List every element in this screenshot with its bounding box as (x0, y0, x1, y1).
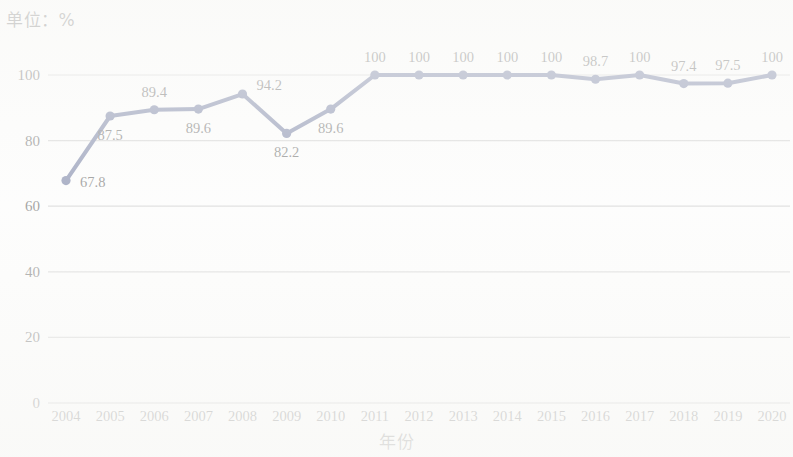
x-axis-tick-label: 2019 (713, 408, 742, 424)
gridlines-group (48, 75, 790, 403)
data-point-label: 100 (629, 49, 651, 65)
data-point-label: 82.2 (274, 144, 299, 160)
data-point-label: 87.5 (97, 127, 122, 143)
y-axis-tick-label: 100 (18, 67, 41, 83)
x-axis-tick-label: 2007 (184, 408, 213, 424)
data-point-label: 98.7 (583, 53, 608, 69)
data-point-marker (61, 176, 70, 185)
x-axis-tick-label: 2020 (758, 408, 787, 424)
x-axis-tick-label: 2005 (96, 408, 125, 424)
y-axis-tick-label: 0 (33, 395, 41, 411)
series-points-group (61, 70, 776, 185)
data-point-marker (547, 70, 556, 79)
data-point-label: 100 (496, 49, 518, 65)
data-point-marker (194, 105, 203, 114)
data-point-marker (591, 75, 600, 84)
data-point-label: 100 (541, 49, 563, 65)
data-point-label: 100 (408, 49, 430, 65)
x-axis-tick-label: 2011 (361, 408, 389, 424)
data-point-label: 89.6 (186, 120, 211, 136)
data-point-marker (238, 89, 247, 98)
data-point-marker (767, 70, 776, 79)
data-point-label: 67.8 (80, 174, 105, 190)
x-axis-tick-label: 2015 (537, 408, 566, 424)
y-axis-tick-label: 60 (25, 198, 40, 214)
data-point-label: 89.6 (318, 120, 343, 136)
x-axis-tick-label: 2013 (449, 408, 478, 424)
y-axis-ticks: 020406080100 (18, 67, 41, 411)
data-point-marker (414, 70, 423, 79)
x-axis-tick-label: 2012 (405, 408, 434, 424)
y-axis-tick-label: 20 (25, 329, 40, 345)
x-axis-tick-label: 2008 (228, 408, 257, 424)
data-point-marker (150, 105, 159, 114)
y-axis-tick-label: 40 (25, 264, 40, 280)
x-axis-tick-label: 2010 (316, 408, 345, 424)
x-axis-tick-label: 2009 (272, 408, 301, 424)
y-axis-tick-label: 80 (25, 133, 40, 149)
line-chart-plot: 020406080100 200420052006200720082009201… (0, 0, 793, 457)
series-line (66, 75, 772, 181)
data-point-marker (679, 79, 688, 88)
x-axis-tick-label: 2004 (52, 408, 82, 424)
x-axis-tick-label: 2016 (581, 408, 610, 424)
data-point-label: 100 (364, 49, 386, 65)
x-axis-tick-label: 2017 (625, 408, 654, 424)
data-point-label: 97.4 (671, 58, 697, 74)
data-point-marker (503, 70, 512, 79)
data-point-marker (459, 70, 468, 79)
data-point-marker (723, 79, 732, 88)
data-point-label: 94.2 (257, 77, 282, 93)
data-point-label: 100 (452, 49, 474, 65)
x-axis-tick-label: 2018 (669, 408, 698, 424)
series-line-group (66, 75, 772, 181)
x-axis-tick-label: 2006 (140, 408, 169, 424)
data-point-label: 89.4 (142, 84, 168, 100)
data-point-marker (635, 70, 644, 79)
chart-container: 单位：% 020406080100 2004200520062007200820… (0, 0, 793, 457)
x-axis-title: 年份 (0, 428, 793, 453)
series-data-labels: 67.887.589.489.694.282.289.6100100100100… (80, 49, 783, 190)
data-point-marker (282, 129, 291, 138)
data-point-label: 100 (761, 49, 783, 65)
data-point-marker (326, 105, 335, 114)
data-point-marker (370, 70, 379, 79)
data-point-marker (106, 111, 115, 120)
data-point-label: 97.5 (715, 57, 740, 73)
x-axis-tick-label: 2014 (493, 408, 523, 424)
x-axis-ticks: 2004200520062007200820092010201120122013… (52, 408, 787, 424)
